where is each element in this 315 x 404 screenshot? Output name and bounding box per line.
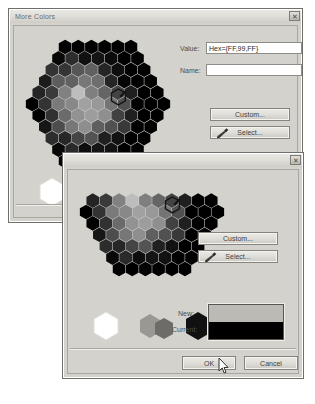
color-hex-cell[interactable] (139, 239, 152, 254)
color-hex-cell[interactable] (152, 239, 165, 254)
color-hex-cell[interactable] (125, 63, 138, 78)
color-hex-cell[interactable] (125, 131, 138, 146)
color-hex-cell[interactable] (100, 193, 113, 208)
color-hex-cell[interactable] (59, 85, 72, 100)
color-hex-cell[interactable] (165, 262, 178, 277)
color-hex-cell[interactable] (159, 228, 172, 243)
color-hex-cell[interactable] (126, 216, 139, 231)
color-hex-cell[interactable] (125, 40, 138, 55)
color-hex-cell[interactable] (52, 74, 65, 89)
color-hex-cell[interactable] (113, 216, 126, 231)
color-hex-cell[interactable] (98, 85, 111, 100)
color-hex-cell[interactable] (172, 228, 185, 243)
color-hex-cell[interactable] (92, 97, 105, 112)
color-hex-cell[interactable] (146, 250, 159, 265)
color-hex-cell[interactable] (111, 131, 124, 146)
color-hex-cell[interactable] (72, 108, 85, 123)
color-hex-cell[interactable] (80, 205, 93, 220)
color-hex-cell[interactable] (93, 228, 106, 243)
color-hex-cell[interactable] (65, 97, 78, 112)
color-hex-cell[interactable] (100, 239, 113, 254)
color-hex-cell[interactable] (205, 216, 218, 231)
color-hex-cell[interactable] (179, 193, 192, 208)
custom-button[interactable]: Custom... (210, 108, 290, 121)
color-hex-cell[interactable] (118, 51, 131, 66)
hex-color-wheel-front[interactable] (74, 172, 229, 322)
color-hex-cell[interactable] (118, 74, 131, 89)
color-hex-cell[interactable] (172, 250, 185, 265)
color-hex-cell[interactable] (185, 250, 198, 265)
color-hex-cell[interactable] (39, 120, 52, 135)
color-hex-cell[interactable] (65, 120, 78, 135)
color-hex-cell[interactable] (105, 120, 118, 135)
color-hex-cell[interactable] (126, 193, 139, 208)
color-hex-cell[interactable] (111, 40, 124, 55)
more-colors-dialog-front[interactable]: ✕ Custom... (62, 152, 304, 379)
color-hex-cell[interactable] (179, 239, 192, 254)
color-hex-cell[interactable] (125, 85, 138, 100)
color-hex-cell[interactable] (146, 228, 159, 243)
color-hex-cell[interactable] (93, 205, 106, 220)
color-hex-cell[interactable] (72, 40, 85, 55)
color-hex-cell[interactable] (98, 131, 111, 146)
color-hex-cell[interactable] (118, 120, 131, 135)
color-hex-cell[interactable] (72, 131, 85, 146)
select-button-front[interactable]: Select... (198, 250, 278, 263)
color-hex-cell[interactable] (144, 120, 157, 135)
color-hex-cell[interactable] (144, 97, 157, 112)
color-hex-cell[interactable] (92, 120, 105, 135)
color-hex-cell[interactable] (52, 97, 65, 112)
color-hex-cell[interactable] (59, 40, 72, 55)
color-hex-cell[interactable] (139, 216, 152, 231)
custom-button-front[interactable]: Custom... (198, 232, 278, 245)
color-hex-cell[interactable] (146, 205, 159, 220)
color-hex-cell[interactable] (119, 250, 132, 265)
color-hex-cell[interactable] (133, 205, 146, 220)
color-hex-cell[interactable] (138, 131, 151, 146)
color-hex-cell[interactable] (133, 228, 146, 243)
color-hex-cell[interactable] (179, 262, 192, 277)
color-hex-cell[interactable] (72, 63, 85, 78)
color-hex-cell[interactable] (46, 63, 59, 78)
color-hex-cell[interactable] (32, 85, 45, 100)
color-hex-cell[interactable] (79, 120, 92, 135)
color-hex-cell[interactable] (85, 131, 98, 146)
color-hex-cell[interactable] (85, 63, 98, 78)
color-hex-cell[interactable] (125, 108, 138, 123)
color-hex-cell[interactable] (72, 85, 85, 100)
color-hex-cell[interactable] (126, 262, 139, 277)
color-hex-cell[interactable] (59, 131, 72, 146)
color-hex-cell[interactable] (92, 51, 105, 66)
color-hex-cell[interactable] (165, 216, 178, 231)
color-hex-cell[interactable] (212, 205, 225, 220)
color-hex-cell[interactable] (131, 120, 144, 135)
color-hex-cell[interactable] (113, 262, 126, 277)
color-hex-cell[interactable] (205, 193, 218, 208)
color-hex-cell[interactable] (192, 193, 205, 208)
ok-button-front[interactable]: OK (182, 356, 236, 370)
color-hex-cell[interactable] (158, 97, 171, 112)
cancel-button-front[interactable]: Cancel (244, 356, 298, 370)
color-hex-cell[interactable] (79, 74, 92, 89)
color-hex-cell[interactable] (119, 228, 132, 243)
color-hex-cell[interactable] (111, 63, 124, 78)
color-hex-cell[interactable] (65, 51, 78, 66)
color-hex-cell[interactable] (131, 74, 144, 89)
color-hex-cell[interactable] (79, 51, 92, 66)
color-preview-box-front[interactable] (208, 304, 284, 340)
color-hex-cell[interactable] (139, 193, 152, 208)
color-hex-cell[interactable] (98, 63, 111, 78)
color-hex-cell[interactable] (138, 85, 151, 100)
swatch-white-front[interactable] (94, 312, 118, 340)
color-hex-cell[interactable] (46, 108, 59, 123)
color-hex-cell[interactable] (59, 108, 72, 123)
color-hex-cell[interactable] (198, 205, 211, 220)
color-hex-cell[interactable] (113, 193, 126, 208)
color-hex-cell[interactable] (159, 250, 172, 265)
color-hex-cell[interactable] (131, 51, 144, 66)
color-hex-cell[interactable] (100, 216, 113, 231)
color-hex-cell[interactable] (52, 51, 65, 66)
color-hex-cell[interactable] (151, 85, 164, 100)
color-hex-cell[interactable] (86, 216, 99, 231)
color-hex-cell[interactable] (113, 239, 126, 254)
